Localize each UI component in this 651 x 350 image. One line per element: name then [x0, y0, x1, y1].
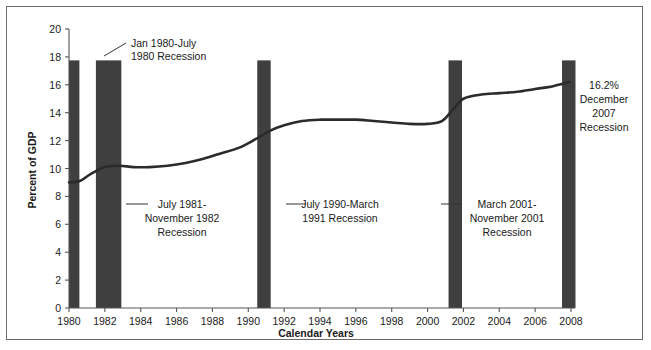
- x-tick-label-1982: 1982: [93, 315, 117, 327]
- x-tick-label-1992: 1992: [272, 315, 296, 327]
- annotation-a4-line-3: Recession: [482, 226, 531, 238]
- x-tick-label-1996: 1996: [344, 315, 368, 327]
- y-axis-tick-labels: 02468101214161820: [49, 23, 61, 314]
- annotation-a1-line-2: 1980 Recession: [131, 50, 206, 62]
- y-tick-label-0: 0: [55, 302, 61, 314]
- annotation-a3-line-1: July 1990-March: [301, 198, 379, 210]
- series-line-health-spending: [69, 82, 569, 182]
- y-tick-label-18: 18: [49, 51, 61, 63]
- annotation-a2-line-2: November 1982: [145, 212, 220, 224]
- x-tick-label-1994: 1994: [308, 315, 332, 327]
- y-tick-label-10: 10: [49, 163, 61, 175]
- y-axis-title: Percent of GDP: [26, 131, 38, 208]
- x-tick-label-1984: 1984: [129, 315, 153, 327]
- chart-figure: 1980198219841986198819901992199419961998…: [0, 0, 651, 350]
- recession-band-recession-1981-1982: [96, 60, 121, 308]
- x-tick-label-2008: 2008: [559, 315, 583, 327]
- x-tick-label-2000: 2000: [416, 315, 440, 327]
- y-tick-label-14: 14: [49, 107, 61, 119]
- x-axis-title: Calendar Years: [278, 327, 354, 339]
- annotation-a5-line-2: December: [580, 93, 629, 105]
- y-tick-label-6: 6: [55, 218, 61, 230]
- x-tick-label-2002: 2002: [452, 315, 476, 327]
- x-tick-label-1990: 1990: [237, 315, 261, 327]
- recession-band-recession-1990-1991: [257, 60, 270, 308]
- annotation-a2-line-3: Recession: [157, 226, 206, 238]
- annotation-a5-line-4: Recession: [579, 121, 628, 133]
- annotation-a1-line-1: Jan 1980-July: [131, 37, 197, 49]
- annotation-labels: Jan 1980-July1980 RecessionJuly 1981-Nov…: [131, 37, 629, 238]
- x-tick-label-2006: 2006: [523, 315, 547, 327]
- chart-canvas: 1980198219841986198819901992199419961998…: [0, 0, 651, 350]
- chart-axes: [65, 29, 575, 312]
- y-tick-label-16: 16: [49, 79, 61, 91]
- recession-bars: [69, 60, 575, 308]
- x-axis-tick-labels: 1980198219841986198819901992199419961998…: [57, 315, 583, 327]
- annotation-a4-line-1: March 2001-: [478, 198, 537, 210]
- recession-band-recession-2007: [562, 60, 575, 308]
- leader-line-a1: [104, 43, 126, 56]
- x-tick-label-2004: 2004: [488, 315, 512, 327]
- x-tick-label-1988: 1988: [201, 315, 225, 327]
- x-tick-label-1980: 1980: [57, 315, 81, 327]
- annotation-a2-line-1: July 1981-: [158, 198, 207, 210]
- y-tick-label-12: 12: [49, 135, 61, 147]
- y-tick-label-20: 20: [49, 23, 61, 35]
- recession-band-recession-1980: [69, 60, 79, 308]
- x-tick-label-1998: 1998: [380, 315, 404, 327]
- y-tick-label-4: 4: [55, 246, 61, 258]
- y-tick-label-8: 8: [55, 190, 61, 202]
- annotation-a5-line-3: 2007: [592, 107, 616, 119]
- annotation-a5-line-1: 16.2%: [589, 79, 619, 91]
- annotation-a3-line-2: 1991 Recession: [302, 212, 377, 224]
- recession-band-recession-2001: [449, 60, 462, 308]
- y-tick-label-2: 2: [55, 274, 61, 286]
- annotation-a4-line-2: November 2001: [470, 212, 545, 224]
- x-tick-label-1986: 1986: [165, 315, 189, 327]
